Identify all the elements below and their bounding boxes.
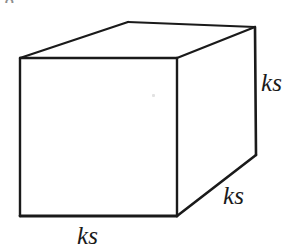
- dimension-label-height-right: ks: [261, 70, 282, 95]
- scan-speck: [152, 94, 155, 97]
- figure-container: g ks ks ks: [0, 0, 294, 251]
- edge-back-right-vertical: [255, 27, 256, 155]
- dimension-label-depth-front: ks: [223, 183, 244, 208]
- cube-front-face: [20, 58, 177, 216]
- cube-faces: [20, 22, 256, 216]
- dimension-label-width-bottom: ks: [77, 223, 98, 248]
- cube-drawing: [0, 0, 294, 251]
